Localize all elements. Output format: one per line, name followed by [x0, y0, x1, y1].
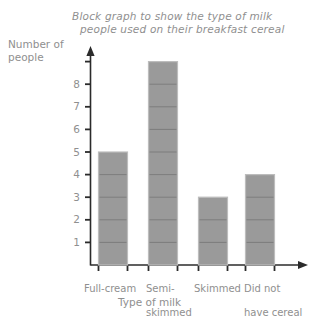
- bar-body: [99, 152, 128, 265]
- y-tick-label-6: 6: [62, 124, 80, 135]
- category-label-line: Full-cream: [84, 283, 136, 294]
- category-label-line: have cereal: [244, 307, 302, 318]
- category-label-line: Skimmed: [194, 283, 241, 294]
- category-label-line: Did not: [244, 283, 280, 294]
- bar-3: [199, 197, 228, 265]
- y-tick-label-3: 3: [62, 192, 80, 203]
- category-label-line: skimmed: [146, 307, 192, 318]
- block-graph-figure: Block graph to show the type of milk peo…: [0, 0, 317, 320]
- category-label-semi-skimmed: Semi- skimmed: [146, 271, 198, 319]
- y-tick-label-2: 2: [62, 214, 80, 225]
- bar-4: [246, 175, 275, 265]
- y-tick-label-5: 5: [62, 147, 80, 158]
- y-tick-label-7: 7: [62, 101, 80, 112]
- y-tick-label-4: 4: [62, 169, 80, 180]
- y-axis: [86, 46, 94, 266]
- category-label-line: Semi-: [146, 283, 175, 294]
- y-tick-label-1: 1: [62, 237, 80, 248]
- bar-2: [149, 62, 178, 265]
- bar-1: [99, 152, 128, 265]
- y-axis-ticks: [85, 62, 91, 243]
- bar-body: [149, 62, 178, 265]
- y-tick-label-8: 8: [62, 79, 80, 90]
- category-label-did-not-have-cereal: Did not have cereal: [244, 271, 314, 319]
- category-label-full-cream: Full-cream: [84, 271, 146, 295]
- bar-body: [199, 197, 228, 265]
- x-axis-title: Type of milk: [118, 296, 181, 308]
- bars-layer: [99, 62, 275, 265]
